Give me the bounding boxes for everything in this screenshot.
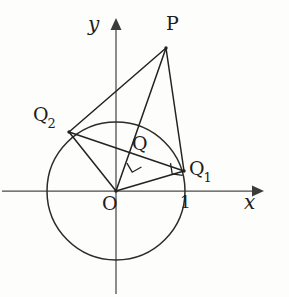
point-marker-Q2 xyxy=(67,130,70,133)
point-label-Q2: Q2 xyxy=(33,105,57,128)
y-axis-label-text: y xyxy=(88,12,99,36)
x-axis-label-text: x xyxy=(244,190,255,214)
segment-Q2-Q1 xyxy=(69,132,184,171)
point-markers-group xyxy=(67,46,185,192)
y-axis-label: y xyxy=(88,14,99,34)
point-label-Q1-subscript: 1 xyxy=(204,170,212,185)
point-label-Q2-text: Q xyxy=(33,103,49,125)
point-label-P-text: P xyxy=(166,12,179,34)
x-tick-label-1: 1 xyxy=(180,194,191,211)
point-label-Q1-text: Q xyxy=(189,157,205,179)
point-label-O-text: O xyxy=(102,192,118,214)
right-angle-marks-group xyxy=(127,163,183,175)
right-angle-at-Q xyxy=(127,163,141,172)
point-label-Q2-subscript: 2 xyxy=(48,116,56,131)
segment-P-Q1 xyxy=(166,48,184,171)
y-axis-arrowhead xyxy=(111,18,122,30)
x-tick-label-1-text: 1 xyxy=(180,192,191,212)
point-label-O: O xyxy=(102,194,118,213)
segment-O-Q2 xyxy=(69,132,116,191)
geometry-figure: y x P Q2 Q1 Q O 1 xyxy=(0,0,289,297)
segments-group xyxy=(69,48,184,191)
point-label-Q-text: Q xyxy=(132,132,148,154)
point-label-P: P xyxy=(166,14,179,33)
point-label-Q1: Q1 xyxy=(189,159,213,182)
x-axis-label: x xyxy=(244,192,255,212)
point-label-Q: Q xyxy=(132,134,148,153)
axes-group xyxy=(2,18,264,294)
point-marker-P xyxy=(164,46,167,49)
point-marker-Q1 xyxy=(182,169,185,172)
